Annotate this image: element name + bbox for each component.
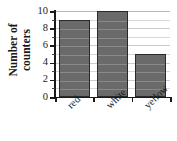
y-axis-minor-tick: [52, 37, 55, 38]
bar-stripe: [98, 72, 127, 73]
bar-stripe: [136, 64, 165, 65]
y-axis-tick-label: 2: [32, 74, 48, 85]
bar-stripe: [98, 81, 127, 82]
y-axis-tick-label: 0: [32, 92, 48, 103]
y-axis-tick: [50, 63, 55, 65]
bar-stripe: [98, 29, 127, 30]
x-axis-tick: [132, 97, 134, 102]
y-axis-title-line-1: Number of: [7, 23, 20, 76]
bar-stripe: [60, 38, 89, 39]
bar-stripe: [136, 81, 165, 82]
bar-stripe: [98, 38, 127, 39]
bar-stripe: [60, 55, 89, 56]
plot-area: [55, 11, 170, 97]
bar-stripe: [60, 81, 89, 82]
y-axis-minor-tick: [52, 71, 55, 72]
y-axis-tick: [50, 80, 55, 82]
bar-white: [97, 11, 128, 97]
x-axis-tick: [170, 97, 172, 102]
bar-stripe: [98, 55, 127, 56]
y-axis-tick-label: 10: [32, 6, 48, 17]
x-axis-tick: [93, 97, 95, 102]
y-axis-tick: [50, 45, 55, 47]
bar-stripe: [60, 29, 89, 30]
bar-stripe: [60, 64, 89, 65]
y-axis-tick-label: 4: [32, 57, 48, 68]
bar-stripe: [60, 89, 89, 90]
y-axis-tick-label: 8: [32, 23, 48, 34]
y-axis-minor-tick: [52, 20, 55, 21]
y-axis-tick-label: 6: [32, 40, 48, 51]
bar-stripe: [60, 46, 89, 47]
bar-stripe: [98, 64, 127, 65]
y-axis-tick: [50, 28, 55, 30]
bar-red: [59, 20, 90, 97]
bar-stripe: [98, 46, 127, 47]
x-axis-tick: [55, 97, 57, 102]
bar-stripe: [98, 21, 127, 22]
y-axis-tick: [50, 11, 55, 13]
bar-stripe: [136, 72, 165, 73]
bar-stripe: [60, 72, 89, 73]
y-axis-minor-tick: [52, 54, 55, 55]
bar-chart-figure: Number of counters 0246810redwhiteyellow: [0, 0, 177, 141]
y-axis-title-line-2: counters: [19, 23, 32, 76]
y-axis-minor-tick: [52, 88, 55, 89]
